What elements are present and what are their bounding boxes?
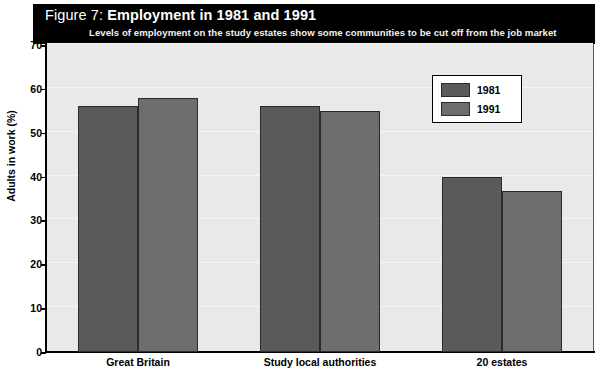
category-label-great-britain: Great Britain bbox=[106, 356, 170, 368]
y-tick-label-0: 0 bbox=[2, 346, 42, 358]
legend-swatch-1991 bbox=[441, 102, 470, 116]
y-tick-label-70: 70 bbox=[2, 39, 42, 51]
y-tick-label-20: 20 bbox=[2, 258, 42, 270]
bar-1981-great-britain bbox=[78, 106, 138, 352]
legend-label-1991: 1991 bbox=[477, 103, 500, 115]
category-label-study-local-authorities: Study local authorities bbox=[264, 356, 377, 368]
y-tick-label-10: 10 bbox=[2, 302, 42, 314]
figure-employment-chart: Figure 7: Employment in 1981 and 1991 Le… bbox=[0, 0, 606, 373]
chart-title-text: Employment in 1981 and 1991 bbox=[107, 7, 316, 23]
legend-label-1981: 1981 bbox=[477, 84, 500, 96]
category-label-20-estates: 20 estates bbox=[477, 356, 528, 368]
chart-legend: 19811991 bbox=[432, 75, 522, 123]
gridline-70 bbox=[47, 43, 593, 44]
chart-title: Figure 7: Employment in 1981 and 1991 bbox=[45, 7, 316, 23]
bar-1991-study-local-authorities bbox=[320, 111, 380, 352]
x-axis-category-labels: Great BritainStudy local authorities20 e… bbox=[47, 356, 593, 372]
bar-1991-great-britain bbox=[138, 98, 198, 352]
legend-swatch-1981 bbox=[441, 83, 470, 97]
bar-1981-study-local-authorities bbox=[260, 106, 320, 352]
bar-1991-20-estates bbox=[502, 191, 562, 352]
bar-1981-20-estates bbox=[442, 177, 502, 352]
legend-entry-1991: 1991 bbox=[441, 101, 500, 116]
title-banner: Figure 7: Employment in 1981 and 1991 Le… bbox=[33, 4, 595, 44]
legend-entry-1981: 1981 bbox=[441, 82, 500, 97]
figure-label: Figure 7: bbox=[45, 7, 103, 23]
chart-subtitle: Levels of employment on the study estate… bbox=[89, 27, 557, 38]
y-axis-title: Adults in work (%) bbox=[5, 76, 17, 236]
